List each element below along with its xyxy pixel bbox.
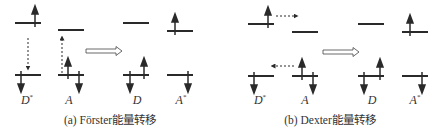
panel-caption: (a) Förster能量转移 [64,111,156,127]
panel-caption: (b) Dexter能量转移 [284,111,376,127]
species-label: A [65,93,72,108]
species-label: A* [410,93,421,108]
species-label: D* [21,93,33,108]
species-label: A* [176,93,187,108]
electron-spin-arrows [18,6,425,93]
species-label: A [301,93,308,108]
species-label: D [368,93,377,108]
process-arrows [86,47,359,57]
species-label: D [133,93,142,108]
species-label: D* [254,93,266,108]
